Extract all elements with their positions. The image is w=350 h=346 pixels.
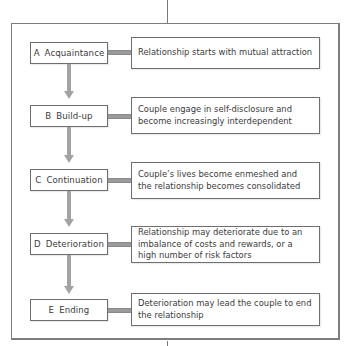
stage-letter: E <box>49 305 55 315</box>
arrow-d-to-e <box>67 255 71 286</box>
arrowhead-down-icon <box>64 91 74 99</box>
top-connector-line <box>167 0 168 23</box>
arrow-c-to-d <box>67 191 71 219</box>
stage-box-e: E Ending <box>30 299 108 321</box>
stage-name: Acquaintance <box>45 48 105 58</box>
stage-box-a: A Acquaintance <box>30 42 108 64</box>
stage-description: Relationship starts with mutual attracti… <box>138 47 312 59</box>
stage-box-c: C Continuation <box>30 169 108 191</box>
arrow-a-to-b <box>67 64 71 92</box>
arrowhead-down-icon <box>64 219 74 227</box>
stage-description: Deterioration may lead the couple to end… <box>138 298 313 321</box>
stage-letter: C <box>35 175 41 185</box>
stage-box-b: B Build-up <box>30 105 108 127</box>
bottom-connector-line <box>167 341 168 346</box>
description-box-e: Deterioration may lead the couple to end… <box>131 293 320 326</box>
link-c <box>108 178 131 183</box>
arrowhead-down-icon <box>64 155 74 163</box>
arrowhead-down-icon <box>64 286 74 294</box>
arrow-b-to-c <box>67 127 71 155</box>
stage-name: Continuation <box>46 175 102 185</box>
stage-name: Build-up <box>56 111 92 121</box>
link-a <box>108 50 131 55</box>
link-e <box>108 308 131 313</box>
link-b <box>108 114 131 119</box>
stage-letter: B <box>45 111 51 121</box>
stage-description: Relationship may deteriorate due to an i… <box>138 227 313 262</box>
description-box-c: Couple’s lives become enmeshed and the r… <box>131 162 320 199</box>
stage-name: Ending <box>59 305 89 315</box>
stage-description: Couple engage in self-disclosure and bec… <box>138 104 313 127</box>
description-box-b: Couple engage in self-disclosure and bec… <box>131 97 320 134</box>
description-box-d: Relationship may deteriorate due to an i… <box>131 226 320 263</box>
stage-description: Couple’s lives become enmeshed and the r… <box>138 169 313 192</box>
description-box-a: Relationship starts with mutual attracti… <box>131 37 320 69</box>
stage-letter: D <box>34 239 41 249</box>
stage-name: Deterioration <box>46 239 104 249</box>
link-d <box>108 242 131 247</box>
stage-letter: A <box>34 48 40 58</box>
stage-box-d: D Deterioration <box>30 233 108 255</box>
